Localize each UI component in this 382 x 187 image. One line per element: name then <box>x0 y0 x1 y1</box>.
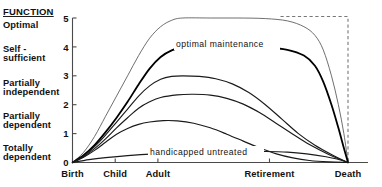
function-level-partially-independent-line2: independent <box>3 87 59 97</box>
y-tick-label-0: 0 <box>63 157 68 168</box>
handicapped-untreated-label: handicapped untreated <box>150 147 247 157</box>
x-tick-label-retirement: Retirement <box>244 169 294 179</box>
x-tick-label-child: Child <box>103 169 127 179</box>
function-axis-labels: FUNCTION Optimal Self - sufficient Parti… <box>3 6 59 162</box>
y-axis-tick-labels: 012345 <box>63 13 69 169</box>
function-heading: FUNCTION <box>3 6 54 17</box>
y-tick-label-3: 3 <box>63 70 68 81</box>
curve-annotations: optimal maintenance handicapped untreate… <box>148 38 280 158</box>
function-level-totally-dependent-line2: dependent <box>3 152 51 162</box>
chart-canvas: FUNCTION Optimal Self - sufficient Parti… <box>0 0 382 187</box>
x-axis-tick-labels: BirthChildAdultRetirementDeath <box>61 169 361 179</box>
y-tick-label-4: 4 <box>63 42 69 53</box>
x-tick-label-death: Death <box>335 169 362 179</box>
potential-lifespan-guide-line <box>281 17 349 163</box>
x-tick-label-birth: Birth <box>61 169 84 179</box>
optimal-maintenance-label: optimal maintenance <box>176 39 264 49</box>
function-lifespan-chart: FUNCTION Optimal Self - sufficient Parti… <box>0 0 382 187</box>
function-level-optimal: Optimal <box>3 20 38 30</box>
y-tick-label-1: 1 <box>63 128 69 139</box>
y-tick-label-5: 5 <box>63 13 69 24</box>
y-axis-ticks <box>73 18 77 163</box>
x-tick-label-adult: Adult <box>146 169 171 179</box>
y-tick-label-2: 2 <box>63 99 68 110</box>
curve-optimal-maintenance <box>73 47 349 163</box>
function-level-partially-dependent-line2: dependent <box>3 120 51 130</box>
function-level-self-sufficient-line2: sufficient <box>3 53 45 63</box>
